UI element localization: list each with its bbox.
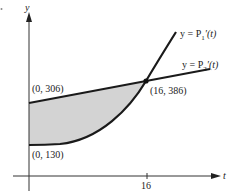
intersection-point bbox=[143, 78, 148, 83]
curve2-suffix: ′(t) bbox=[207, 59, 219, 70]
y-axis-arrow-icon bbox=[26, 12, 32, 22]
curve1-sub: 1 bbox=[201, 34, 205, 42]
point-label-0-306: (0, 306) bbox=[32, 84, 64, 94]
curve2-prefix: y = P bbox=[182, 59, 203, 70]
x-tick-label-16: 16 bbox=[141, 181, 151, 191]
x-axis-label: t bbox=[223, 171, 226, 181]
curve1-suffix: ′(t) bbox=[205, 28, 217, 39]
curve1-prefix: y = P bbox=[180, 28, 201, 39]
figure-marker-dot bbox=[1, 8, 3, 10]
x-axis-arrow-icon bbox=[211, 173, 221, 179]
curve-label-p2-prime: y = P2′(t) bbox=[182, 60, 218, 70]
y-axis-label: y bbox=[25, 3, 29, 13]
curve-label-p1-prime: y = P1′(t) bbox=[180, 29, 216, 39]
curve2-sub: 2 bbox=[203, 65, 207, 73]
point-label-16-386: (16, 386) bbox=[150, 86, 187, 96]
point-label-0-130: (0, 130) bbox=[32, 150, 64, 160]
